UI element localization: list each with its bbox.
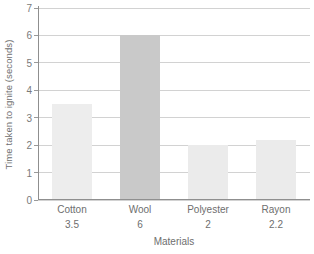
bars-container: [38, 8, 310, 200]
bar-value-label-rayon: 2.2: [242, 218, 310, 233]
x-tick-group-cotton: Cotton3.5: [38, 203, 106, 232]
y-tick-label-6: 6: [26, 30, 32, 41]
x-tick-label-polyester: Polyester: [174, 203, 242, 218]
x-axis-title: Materials: [38, 236, 310, 247]
bar-value-label-wool: 6: [106, 218, 174, 233]
bar-slot-cotton: [38, 8, 106, 200]
y-tick-label-1: 1: [26, 167, 32, 178]
x-tick-label-cotton: Cotton: [38, 203, 106, 218]
x-tick-group-wool: Wool6: [106, 203, 174, 232]
y-axis-title-label: Time taken to ignite (seconds): [4, 39, 15, 169]
x-axis-tick-labels: Cotton3.5Wool6Polyester2Rayon2.2: [38, 203, 310, 232]
x-axis-line: [38, 199, 310, 200]
bar-chart-figure: Time taken to ignite (seconds) 01234567 …: [0, 0, 314, 254]
bar-polyester: [188, 145, 227, 200]
x-tick-label-rayon: Rayon: [242, 203, 310, 218]
bar-cotton: [52, 104, 91, 200]
y-tick-label-4: 4: [26, 85, 32, 96]
y-tick-label-0: 0: [26, 195, 32, 206]
y-tick-label-7: 7: [26, 3, 32, 14]
bar-value-label-polyester: 2: [174, 218, 242, 233]
y-tick-label-2: 2: [26, 140, 32, 151]
bar-rayon: [256, 140, 295, 200]
y-tick-label-5: 5: [26, 57, 32, 68]
bar-value-label-cotton: 3.5: [38, 218, 106, 233]
x-tick-group-rayon: Rayon2.2: [242, 203, 310, 232]
x-tick-group-polyester: Polyester2: [174, 203, 242, 232]
bar-slot-wool: [106, 8, 174, 200]
bar-wool: [120, 35, 159, 200]
bar-slot-polyester: [174, 8, 242, 200]
y-axis-title: Time taken to ignite (seconds): [0, 0, 18, 208]
plot-area: [38, 8, 310, 200]
x-tick-label-wool: Wool: [106, 203, 174, 218]
bar-slot-rayon: [242, 8, 310, 200]
y-tick-label-3: 3: [26, 112, 32, 123]
